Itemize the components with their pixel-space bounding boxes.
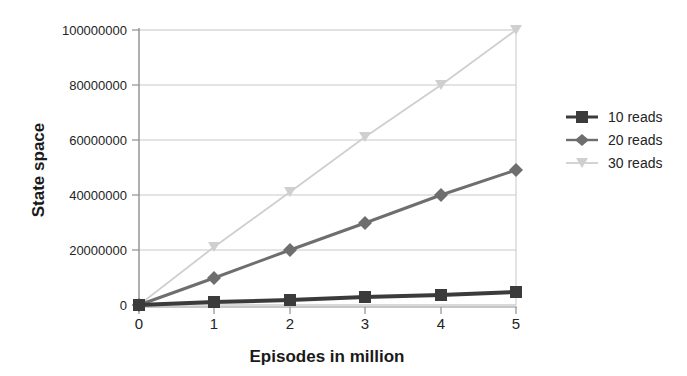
x-tick-label-0: 0	[135, 315, 143, 332]
x-tick-label-2: 2	[286, 315, 294, 332]
y-tick-label-100000000: 100000000	[62, 23, 127, 38]
x-tick-label-4: 4	[437, 315, 445, 332]
marker-10-reads-x0	[133, 299, 145, 311]
y-tick-label-40000000: 40000000	[69, 188, 127, 203]
y-tick-label-80000000: 80000000	[69, 78, 127, 93]
marker-10-reads-x4	[435, 289, 447, 301]
y-tick-label-0: 0	[120, 298, 127, 313]
marker-10-reads-x2	[284, 294, 296, 306]
marker-10-reads-x1	[208, 296, 220, 308]
legend-label-20-reads: 20 reads	[608, 132, 662, 148]
y-tick-label-60000000: 60000000	[69, 133, 127, 148]
chart-figure: 100000000 80000000 60000000 40000000 200…	[0, 0, 687, 376]
legend-item-10-reads[interactable]: 10 reads	[566, 109, 662, 125]
legend-label-10-reads: 10 reads	[608, 109, 662, 125]
x-tick-label-5: 5	[512, 315, 520, 332]
y-axis-title: State space	[29, 123, 48, 218]
line-chart-svg: 100000000 80000000 60000000 40000000 200…	[0, 0, 687, 376]
x-axis-title: Episodes in million	[250, 347, 405, 366]
x-tick-label-3: 3	[361, 315, 369, 332]
marker-10-reads-x3	[359, 291, 371, 303]
chart-legend: 10 reads 20 reads 30 reads	[566, 109, 662, 171]
y-tick-label-20000000: 20000000	[69, 243, 127, 258]
legend-square-icon	[576, 111, 588, 123]
legend-label-30-reads: 30 reads	[608, 155, 662, 171]
marker-10-reads-x5	[510, 286, 522, 298]
x-tick-label-1: 1	[210, 315, 218, 332]
